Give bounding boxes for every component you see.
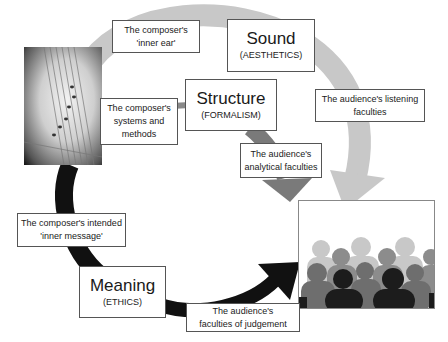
systems-label: The composer's systems and methods [100,98,178,145]
analytical-label: The audience's analytical faculties [240,143,322,178]
systems-line3: methods [122,128,157,141]
inner-ear-line2: 'inner ear' [137,37,176,50]
judgement-label: The audience's faculties of judgement [186,303,300,332]
inner-ear-line1: The composer's [124,24,188,37]
inner-message-line2: 'inner message' [40,230,102,243]
systems-line1: The composer's [107,102,171,115]
judgement-line2: faculties of judgement [199,318,287,331]
analytical-line1: The audience's [251,148,312,161]
sound-subtitle: (AESTHETICS) [240,49,303,62]
structure-subtitle: (FORMALISM) [201,109,261,122]
inner-ear-label: The composer's 'inner ear' [112,20,200,53]
sound-node: Sound (AESTHETICS) [227,19,315,72]
structure-node: Structure (FORMALISM) [185,79,277,131]
meaning-subtitle: (ETHICS) [103,296,142,309]
meaning-node: Meaning (ETHICS) [79,266,166,318]
structure-title: Structure [197,89,266,109]
composer-sheet-music-image [24,47,102,165]
inner-message-label: The composer's intended 'inner message' [17,213,126,247]
inner-message-line1: The composer's intended [21,217,122,230]
audience-image [298,200,435,309]
analytical-line2: analytical faculties [244,161,317,174]
sound-title: Sound [246,29,295,49]
systems-line2: systems and [114,115,165,128]
listening-line1: The audience's listening [322,93,418,106]
meaning-title: Meaning [90,276,155,296]
audience-silhouettes-icon [299,201,435,309]
staff-lines-icon [24,47,102,165]
listening-line2: faculties [353,106,386,119]
listening-label: The audience's listening faculties [315,89,425,122]
judgement-line1: The audience's [213,305,274,318]
